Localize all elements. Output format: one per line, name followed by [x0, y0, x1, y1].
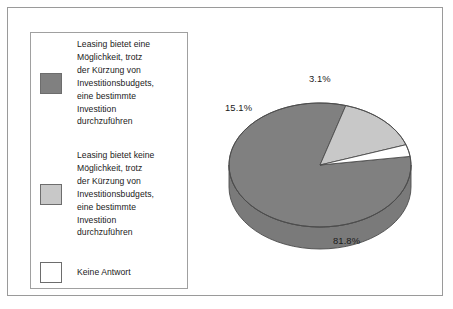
pie-label-dark-gray-slice: 81.8%	[333, 235, 360, 246]
pie-chart-graphic	[204, 58, 436, 268]
legend-swatch-light-gray-icon	[40, 184, 62, 205]
legend-item-label: Keine Antwort	[77, 266, 131, 279]
legend-item-label: Leasing bietet eine Möglichkeit, trotz d…	[77, 38, 154, 128]
legend-swatch-white-icon	[40, 262, 62, 283]
legend-swatch-dark-gray-icon	[40, 73, 62, 94]
legend-item-label: Leasing bietet keine Möglichkeit, trotz …	[77, 149, 154, 239]
legend-item-white[interactable]: Keine Antwort	[40, 262, 131, 283]
pie-label-white-slice: 3.1%	[309, 73, 331, 84]
figure-outer-frame: Leasing bietet eine Möglichkeit, trotz d…	[7, 7, 443, 296]
legend-item-dark-gray[interactable]: Leasing bietet eine Möglichkeit, trotz d…	[40, 38, 154, 128]
pie-chart: 3.1% 15.1% 81.8%	[204, 58, 436, 268]
pie-label-light-gray-slice: 15.1%	[225, 102, 252, 113]
chart-legend: Leasing bietet eine Möglichkeit, trotz d…	[30, 32, 188, 289]
figure-canvas: Leasing bietet eine Möglichkeit, trotz d…	[0, 0, 453, 309]
legend-item-light-gray[interactable]: Leasing bietet keine Möglichkeit, trotz …	[40, 149, 154, 239]
